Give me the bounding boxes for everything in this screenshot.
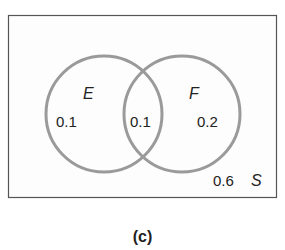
f-only-probability: 0.2	[197, 113, 218, 130]
set-f-label: F	[189, 85, 200, 102]
set-e-label: E	[83, 85, 94, 102]
universe-label: S	[251, 172, 262, 189]
venn-diagram: E F 0.1 0.1 0.2 0.6 S	[0, 0, 285, 250]
figure-caption: (c)	[0, 228, 285, 246]
sample-space-rectangle	[9, 16, 277, 198]
outside-probability: 0.6	[213, 172, 234, 189]
intersection-probability: 0.1	[130, 113, 151, 130]
e-only-probability: 0.1	[56, 113, 77, 130]
